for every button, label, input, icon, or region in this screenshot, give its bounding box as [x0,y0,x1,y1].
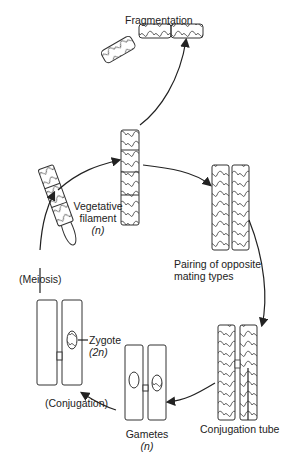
label-conjugation: (Conjugation) [45,397,108,409]
gamete-filaments [125,345,166,420]
label-zygote: Zygote (2n) [89,334,121,358]
conjugating-filaments [218,325,257,420]
label-gametes: Gametes (n) [118,428,176,452]
paired-filaments [212,165,249,250]
label-fragmentation: Fragmentation [125,14,193,26]
label-conjugation-tube: Conjugation tube [200,423,279,435]
zygote-filaments [37,300,82,385]
fragmented-filament [100,24,203,64]
label-meiosis: (Meiosis) [19,273,62,285]
label-pairing: Pairing of opposite mating types [174,258,261,282]
label-vegetative-filament: Vegetative filament (n) [68,200,128,236]
